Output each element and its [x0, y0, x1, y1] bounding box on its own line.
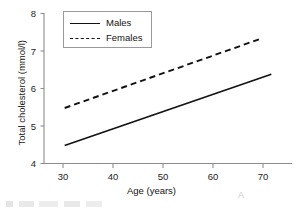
- y-axis-title: Total cholesterol (mmol/l): [17, 23, 27, 163]
- legend-item-males: Males: [70, 16, 131, 30]
- males-trend-line: [65, 74, 272, 145]
- x-tick-label-60: 60: [201, 172, 225, 182]
- series-males: [65, 74, 272, 145]
- series-females: [65, 39, 261, 108]
- legend-label-females: Females: [106, 33, 142, 43]
- x-tick-label-30: 30: [51, 172, 75, 182]
- scan-artifact-mark: A: [238, 191, 247, 200]
- legend-dashed-line-icon: [70, 33, 100, 43]
- y-tick-label-8: 8: [22, 9, 36, 19]
- legend-label-males: Males: [106, 18, 131, 28]
- females-trend-line: [65, 39, 261, 108]
- x-tick-label-50: 50: [151, 172, 175, 182]
- scan-artifact-text-strip: [6, 201, 126, 207]
- x-axis-ticks: [63, 164, 263, 169]
- x-tick-label-70: 70: [251, 172, 275, 182]
- x-axis-title: Age (years): [0, 186, 303, 196]
- x-tick-label-40: 40: [101, 172, 125, 182]
- legend-item-females: Females: [70, 31, 142, 45]
- cholesterol-age-line-chart: 8 7 6 5 4 30 40 50 60 70 Age (years) Tot…: [0, 0, 303, 212]
- legend-solid-line-icon: [70, 18, 100, 28]
- chart-legend: Males Females: [63, 11, 152, 48]
